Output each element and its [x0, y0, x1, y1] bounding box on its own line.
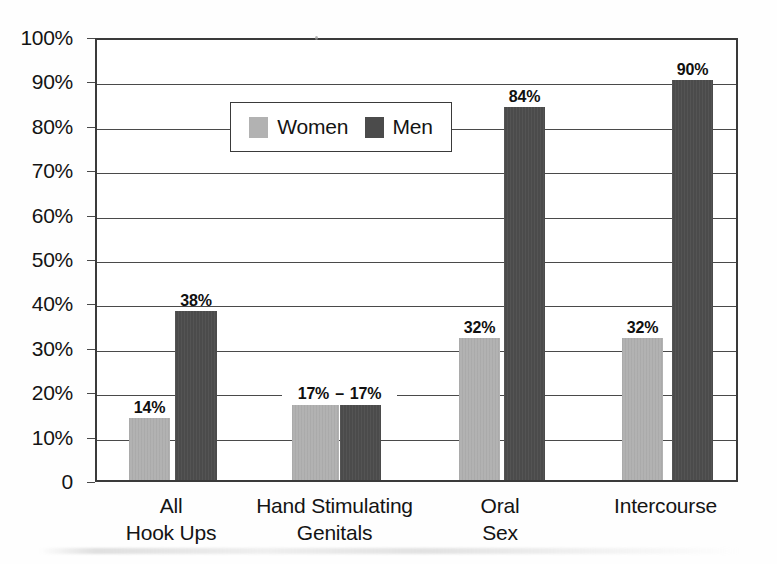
- bar-women-3: [622, 338, 663, 480]
- bar-men-1: [340, 405, 381, 480]
- y-tickmark-40: [87, 304, 95, 305]
- y-tickmark-10: [87, 438, 95, 439]
- y-tick-label-60: 60%: [0, 204, 87, 228]
- bar-women-1: [292, 405, 339, 480]
- gridline-70: [97, 173, 736, 174]
- y-tick-label-50: 50%: [0, 248, 87, 272]
- y-tickmark-0: [87, 482, 95, 483]
- gridline-90: [97, 84, 736, 85]
- y-tick-label-0: 0: [0, 470, 87, 494]
- legend-label-men: Men: [393, 115, 433, 139]
- bar-men-0: [175, 311, 217, 480]
- paired-label-separator: –: [329, 385, 350, 403]
- value-label-men-1: 17%: [350, 385, 381, 402]
- y-tickmark-70: [87, 171, 95, 172]
- bar-men-2: [504, 107, 545, 480]
- bar-women-2: [459, 338, 500, 480]
- value-label-women-0: 14%: [129, 399, 170, 417]
- bar-chart-figure: 100%90%80%70%60%50%40%30%20%10%0 14%38%1…: [0, 0, 777, 564]
- gridline-50: [97, 262, 736, 263]
- y-tickmark-30: [87, 349, 95, 350]
- legend-entry-men: Men: [365, 115, 433, 139]
- y-axis: 100%90%80%70%60%50%40%30%20%10%0: [0, 38, 87, 482]
- y-tick-label-90: 90%: [0, 70, 87, 94]
- x-axis-label-3: Intercourse: [526, 492, 777, 519]
- y-tick-label-10: 10%: [0, 426, 87, 450]
- value-label-men-2: 84%: [504, 88, 545, 106]
- y-tickmark-80: [87, 127, 95, 128]
- y-tick-label-80: 80%: [0, 115, 87, 139]
- scan-smudge-artifact: [40, 548, 740, 554]
- scan-speck-artifact: [315, 36, 318, 40]
- bar-women-0: [129, 418, 170, 480]
- value-label-men-3: 90%: [672, 61, 713, 79]
- legend-swatch-women-icon: [249, 117, 268, 138]
- value-label-paired-1: 17%–17%: [282, 385, 397, 403]
- x-axis-label-2-line-1: Sex: [360, 519, 640, 546]
- y-tickmark-20: [87, 393, 95, 394]
- y-tick-label-20: 20%: [0, 381, 87, 405]
- y-tickmark-50: [87, 260, 95, 261]
- value-label-women-2: 32%: [459, 319, 500, 337]
- gridline-60: [97, 218, 736, 219]
- y-tickmark-90: [87, 82, 95, 83]
- legend: WomenMen: [230, 102, 452, 152]
- x-axis-label-3-line-0: Intercourse: [526, 492, 777, 519]
- legend-entry-women: Women: [249, 115, 348, 139]
- y-tick-label-30: 30%: [0, 337, 87, 361]
- value-label-men-0: 38%: [175, 292, 217, 310]
- value-label-women-3: 32%: [622, 319, 663, 337]
- y-tick-label-40: 40%: [0, 292, 87, 316]
- bar-men-3: [672, 80, 713, 480]
- legend-label-women: Women: [277, 115, 348, 139]
- y-tickmark-100: [87, 38, 95, 39]
- value-label-women-1: 17%: [298, 385, 329, 402]
- y-tick-label-70: 70%: [0, 159, 87, 183]
- y-tick-label-100: 100%: [0, 26, 87, 50]
- legend-swatch-men-icon: [365, 117, 384, 138]
- plot-area: 14%38%17%–17%32%84%32%90% WomenMen: [95, 38, 738, 482]
- y-tickmark-60: [87, 216, 95, 217]
